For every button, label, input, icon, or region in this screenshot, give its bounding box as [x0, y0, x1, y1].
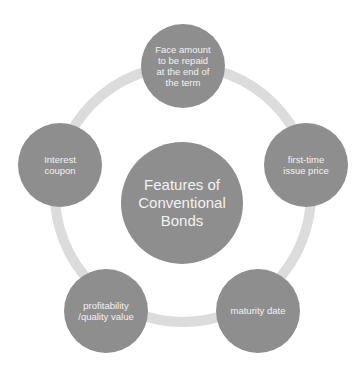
bond-features-diagram: Features of Conventional Bonds Face amou… — [0, 0, 364, 370]
node-label: first-time issue price — [283, 154, 328, 176]
node-maturity-date: maturity date — [216, 269, 300, 353]
node-label: Interest coupon — [44, 154, 76, 176]
center-label: Features of Conventional Bonds — [138, 176, 226, 229]
node-label: Face amount to be repaid at the end of t… — [155, 44, 210, 89]
node-first-time-issue-price: first-time issue price — [264, 123, 348, 207]
node-face-amount: Face amount to be repaid at the end of t… — [141, 24, 225, 108]
node-label: maturity date — [231, 305, 286, 316]
center-node: Features of Conventional Bonds — [121, 142, 243, 264]
node-label: profitability /quality value — [78, 300, 133, 322]
node-profitability-quality-value: profitability /quality value — [64, 269, 148, 353]
node-interest-coupon: Interest coupon — [18, 123, 102, 207]
